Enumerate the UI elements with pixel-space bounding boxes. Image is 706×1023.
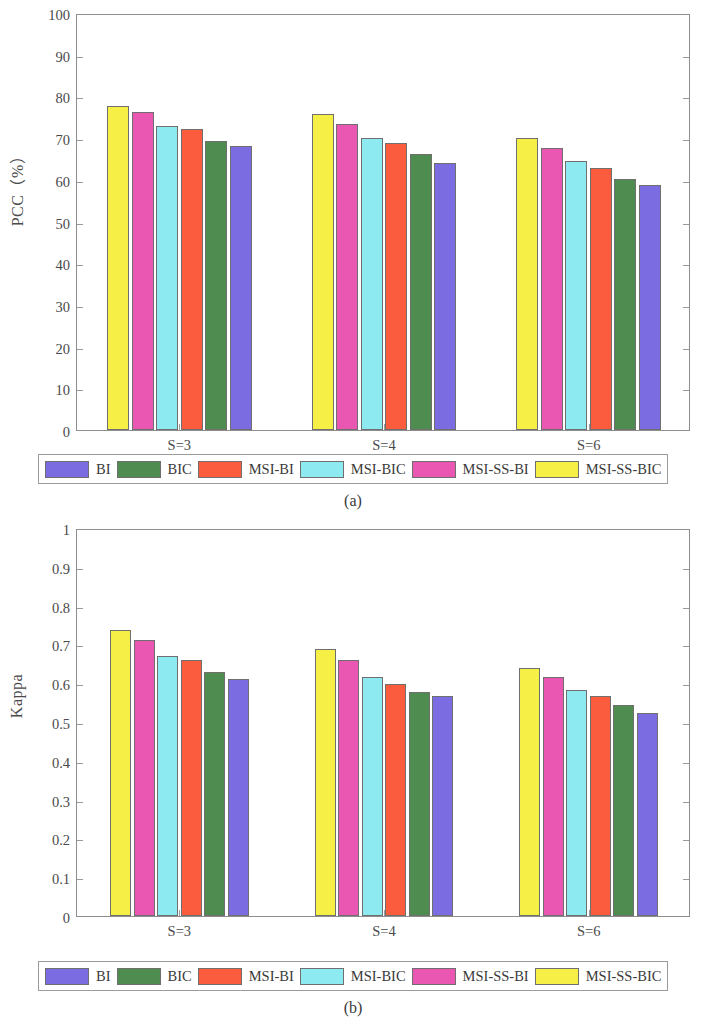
y-tick-mark xyxy=(77,265,83,266)
legend-label: MSI-BIC xyxy=(351,969,406,984)
y-tick-mark xyxy=(77,98,83,99)
y-tick-label: 0.5 xyxy=(52,717,70,732)
bar-msi-bi-s3 xyxy=(181,660,202,916)
legend-entry-msi-ss-bic[interactable]: MSI-SS-BIC xyxy=(535,461,662,478)
y-tick-label: 30 xyxy=(56,300,71,315)
bar-msi-bic-s4 xyxy=(361,138,383,430)
legend-swatch-icon xyxy=(198,968,242,985)
legend-label: MSI-SS-BIC xyxy=(586,969,662,984)
legend-label: MSI-BIC xyxy=(351,462,406,477)
legend-swatch-icon xyxy=(300,968,344,985)
bar-msi-ss-bi-s4 xyxy=(338,660,359,916)
y-axis-label-b: Kappa xyxy=(8,641,26,751)
legend-entry-msi-ss-bi[interactable]: MSI-SS-BI xyxy=(412,968,529,985)
y-tick-label: 0.2 xyxy=(52,833,70,848)
bar-msi-ss-bic-s6 xyxy=(519,668,540,916)
y-tick-label: 0 xyxy=(63,911,70,926)
legend-entry-msi-ss-bi[interactable]: MSI-SS-BI xyxy=(412,461,529,478)
x-tick-label: S=4 xyxy=(372,924,396,939)
y-tick-label: 70 xyxy=(56,133,71,148)
bar-msi-bi-s3 xyxy=(181,129,203,430)
caption-b: (b) xyxy=(0,999,706,1017)
bar-msi-ss-bic-s6 xyxy=(516,138,538,430)
y-tick-mark xyxy=(683,802,689,803)
caption-a: (a) xyxy=(0,492,706,510)
legend-entry-bic[interactable]: BIC xyxy=(117,461,192,478)
bar-bi-s3 xyxy=(230,146,252,430)
y-tick-label: 0.1 xyxy=(52,872,70,887)
y-tick-mark xyxy=(683,879,689,880)
legend-entry-msi-bi[interactable]: MSI-BI xyxy=(198,968,294,985)
bar-msi-ss-bi-s3 xyxy=(134,640,155,916)
y-tick-mark xyxy=(77,802,83,803)
y-tick-mark xyxy=(683,608,689,609)
legend-label: MSI-BI xyxy=(249,462,294,477)
bar-msi-ss-bic-s4 xyxy=(312,114,334,430)
y-tick-label: 20 xyxy=(56,341,71,356)
bar-msi-ss-bi-s6 xyxy=(543,677,564,916)
y-tick-mark xyxy=(683,265,689,266)
y-axis-label-a: PCC（%） xyxy=(4,127,28,247)
legend-entry-bi[interactable]: BI xyxy=(45,968,111,985)
legend-entry-bic[interactable]: BIC xyxy=(117,968,192,985)
bar-msi-ss-bic-s3 xyxy=(110,630,131,916)
bar-bi-s3 xyxy=(228,679,249,916)
y-tick-mark xyxy=(77,646,83,647)
bar-msi-bic-s6 xyxy=(566,690,587,916)
y-tick-label: 50 xyxy=(56,216,71,231)
legend-a: BIBICMSI-BIMSI-BICMSI-SS-BIMSI-SS-BIC xyxy=(38,454,668,484)
y-tick-mark xyxy=(683,724,689,725)
bar-bic-s4 xyxy=(410,154,432,430)
legend-swatch-icon xyxy=(412,968,456,985)
y-tick-mark xyxy=(77,840,83,841)
y-tick-label: 0.8 xyxy=(52,600,70,615)
bar-msi-ss-bic-s3 xyxy=(107,106,129,430)
y-tick-mark xyxy=(683,182,689,183)
y-tick-label: 0.4 xyxy=(52,756,70,771)
bar-bi-s4 xyxy=(434,163,456,430)
bar-bi-s6 xyxy=(637,713,658,916)
bar-msi-bic-s6 xyxy=(565,161,587,430)
legend-entry-msi-ss-bic[interactable]: MSI-SS-BIC xyxy=(535,968,662,985)
legend-swatch-icon xyxy=(412,461,456,478)
x-tick-label: S=3 xyxy=(168,924,192,939)
bar-bic-s3 xyxy=(204,672,225,916)
legend-entry-msi-bic[interactable]: MSI-BIC xyxy=(300,461,406,478)
y-tick-mark xyxy=(683,307,689,308)
y-tick-mark xyxy=(683,349,689,350)
bar-msi-ss-bi-s4 xyxy=(336,124,358,430)
y-tick-mark xyxy=(683,390,689,391)
y-tick-mark xyxy=(683,685,689,686)
legend-entry-bi[interactable]: BI xyxy=(45,461,111,478)
y-tick-label: 0.6 xyxy=(52,678,70,693)
figure-panel-a: PCC（%） 0102030405060708090100S=3S=4S=6 B… xyxy=(0,0,706,512)
bar-bi-s6 xyxy=(639,185,661,430)
y-tick-label: 1 xyxy=(63,523,70,538)
bar-msi-bi-s6 xyxy=(590,696,611,916)
y-tick-mark xyxy=(77,57,83,58)
x-tick-label: S=3 xyxy=(168,438,192,453)
legend-entry-msi-bic[interactable]: MSI-BIC xyxy=(300,968,406,985)
legend-swatch-icon xyxy=(45,968,89,985)
y-tick-mark xyxy=(77,724,83,725)
y-tick-label: 0.3 xyxy=(52,794,70,809)
y-tick-mark xyxy=(77,182,83,183)
y-tick-label: 90 xyxy=(56,49,71,64)
figure-panel-b: Kappa 00.10.20.30.40.50.60.70.80.91S=3S=… xyxy=(0,512,706,1023)
y-tick-mark xyxy=(77,390,83,391)
plot-axes-b: 00.10.20.30.40.50.60.70.80.91S=3S=4S=6 xyxy=(76,529,690,917)
legend-entry-msi-bi[interactable]: MSI-BI xyxy=(198,461,294,478)
y-tick-mark xyxy=(683,763,689,764)
y-tick-label: 0 xyxy=(63,425,70,440)
legend-label: MSI-SS-BIC xyxy=(586,462,662,477)
y-tick-mark xyxy=(77,307,83,308)
legend-swatch-icon xyxy=(535,968,579,985)
bar-msi-bi-s4 xyxy=(385,684,406,916)
y-tick-mark xyxy=(683,569,689,570)
y-tick-label: 0.7 xyxy=(52,639,70,654)
y-tick-label: 10 xyxy=(56,383,71,398)
y-tick-mark xyxy=(683,224,689,225)
legend-label: BIC xyxy=(168,969,192,984)
plot-axes-a: 0102030405060708090100S=3S=4S=6 xyxy=(76,14,690,431)
bar-msi-ss-bi-s6 xyxy=(541,148,563,430)
